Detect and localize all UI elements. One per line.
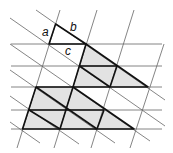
label-c: c xyxy=(65,44,71,58)
lattice-diagram: a b c xyxy=(0,0,173,153)
label-a: a xyxy=(42,25,49,39)
shaded-lower-trapezoid xyxy=(23,87,135,129)
label-b: b xyxy=(70,20,77,34)
unit-triangle xyxy=(49,24,86,44)
